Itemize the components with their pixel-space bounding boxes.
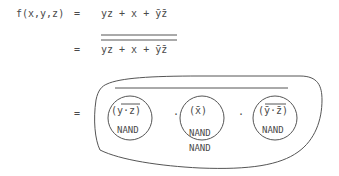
gate-label-3: NAND (262, 125, 284, 135)
expression-double-complement: yz + x + ȳz̄ (101, 44, 167, 55)
equals-sign-2: = (74, 44, 80, 55)
outer-nand-loop (95, 76, 322, 168)
gate-label-2: NAND (189, 128, 211, 138)
term-expression-3: (ȳ·z̄) (258, 105, 288, 116)
function-lhs: f(x,y,z) (16, 8, 64, 19)
term-expression-2: (x̄) (189, 105, 207, 116)
and-dot-2: · (238, 109, 244, 120)
expression-original: yz + x + ȳz̄ (101, 8, 167, 19)
equals-sign-3: = (74, 108, 80, 119)
term-expression-1: (y·z) (111, 105, 141, 116)
gate-label-1: NAND (117, 125, 139, 135)
boolean-derivation-diagram: f(x,y,z) = yz + x + ȳz̄ = yz + x + ȳz̄ =… (0, 0, 339, 176)
equals-sign-1: = (74, 8, 80, 19)
outer-gate-label: NAND (189, 143, 211, 153)
and-dot-1: · (173, 109, 179, 120)
